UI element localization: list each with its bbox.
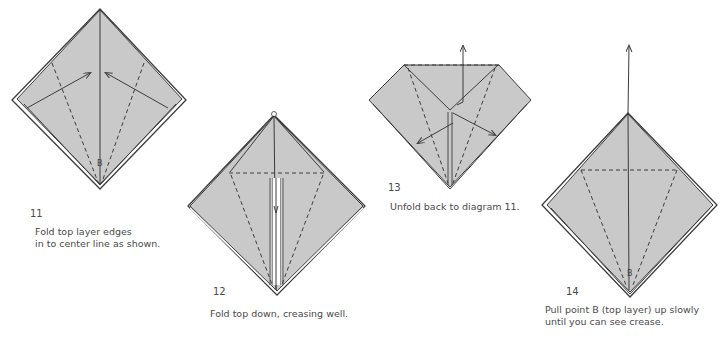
step-11-caption: Fold top layer edges in to center line a… (35, 226, 160, 250)
step-14-caption: Pull point B (top layer) up slowly until… (545, 304, 699, 328)
step-14-number: 14 (566, 286, 579, 297)
step-13-caption: Unfold back to diagram 11. (390, 201, 520, 213)
pull-up-arrow-icon (628, 46, 629, 114)
point-b-label: B (627, 269, 633, 278)
caption-line: Pull point B (top layer) up slowly (545, 304, 699, 316)
step-11-number: 11 (30, 208, 43, 219)
caption-line: in to center line as shown. (35, 238, 160, 250)
step-13-number: 13 (388, 182, 401, 193)
step-12-number: 12 (213, 286, 226, 297)
step-14-diagram: B (542, 46, 717, 297)
step-13-diagram (369, 46, 531, 189)
point-b-label: B (97, 159, 103, 168)
origami-diagrams: B (0, 0, 726, 349)
caption-line: Unfold back to diagram 11. (390, 201, 520, 213)
step-12-caption: Fold top down, creasing well. (210, 308, 348, 320)
paper-body (547, 114, 713, 292)
step-12-diagram (188, 112, 365, 296)
caption-line: Fold top down, creasing well. (210, 308, 348, 320)
top-point-marker (272, 112, 277, 117)
caption-line: until you can see crease. (545, 316, 699, 328)
step-11-diagram: B (12, 9, 186, 189)
caption-line: Fold top layer edges (35, 226, 160, 238)
